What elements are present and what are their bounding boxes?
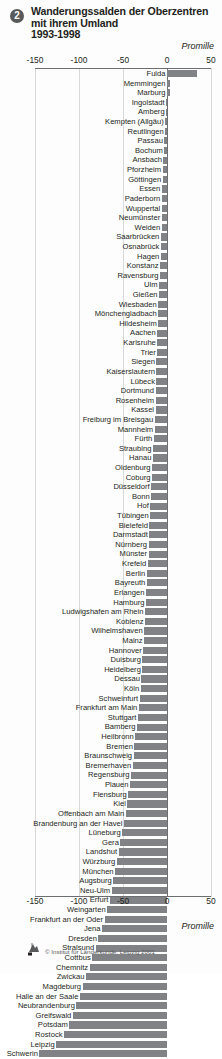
bar-row: Berlin [0,569,222,579]
bar-category-label: Hamburg [113,598,146,607]
bar-category-label: Halle an der Saale [16,992,80,1001]
bar-row: München [0,867,222,877]
bar [140,695,167,702]
bar-row: Hamburg [0,598,222,608]
institute-logo-icon [26,941,42,957]
bar [119,848,167,855]
bar-category-label: Frankfurt am Main [76,703,139,712]
bar [126,810,167,817]
bar-row: Oldenburg [0,463,222,473]
x-axis-tick-label: -100 [71,55,88,65]
bar [86,973,167,980]
bar-category-label: Berlin [126,569,147,578]
bar-category-label: Karlsruhe [123,338,157,347]
bar [120,839,167,846]
bar [165,118,167,125]
bar-category-label: Paderborn [125,194,162,203]
bar [144,637,167,644]
bar-row: Hildesheim [0,319,222,329]
bar [124,820,167,827]
bar-row: Kiel [0,799,222,809]
bar-category-label: Zwickau [57,972,86,981]
bar-row: Koblenz [0,617,222,627]
bar-row: Pforzheim [0,165,222,175]
bar [163,157,167,164]
bar-row: Regensburg [0,770,222,780]
bar-row: Wuppertal [0,204,222,214]
bar-category-label: Stuttgart [108,713,138,722]
bar-category-label: Mannheim [118,425,155,434]
bar-category-label: Fulda [147,69,168,78]
bar [83,983,167,990]
bar [165,128,167,135]
bar-category-label: Münster [120,549,149,558]
bar-row: Passau [0,136,222,146]
bar-category-label: Lüneburg [89,828,123,837]
bar-row: Schwerin [0,1049,222,1059]
bar-row: Hanau [0,453,222,463]
bar-row: Straubing [0,444,222,454]
bar-category-label: Lübeck [130,377,156,386]
bar-category-label: Brandenburg an der Havel [33,819,124,828]
bar-row: Flensburg [0,790,222,800]
bar-row: Fulda [0,69,222,79]
bar-row: Erlangen [0,588,222,598]
bar [166,109,167,116]
bar [141,685,167,692]
bar-category-label: Neubrandenburg [18,1001,77,1010]
bar-row: Nürnberg [0,540,222,550]
bar [157,339,167,346]
bar-category-label: Kiel [113,799,127,808]
bar-row: Landshut [0,847,222,857]
bar-category-label: Heilbronn [101,732,135,741]
bar [92,954,167,961]
bar-row: Ingolstadt [0,98,222,108]
bar-category-label: Ravensburg [118,271,160,280]
bar-category-label: Schweinfurt [99,694,140,703]
bar-category-label: Siegen [131,357,156,366]
bar-category-label: Augsburg [79,876,113,885]
bar-category-label: Ulm [144,280,159,289]
bar-category-label: Krefeld [122,559,148,568]
bar [163,176,167,183]
bar [149,541,167,548]
bar [151,483,167,490]
bar-row: Heidelberg [0,665,222,675]
bar-category-label: Potsdam [38,1020,69,1029]
bar [163,166,167,173]
bar-row: Hagen [0,252,222,262]
bar-row: Fürth [0,434,222,444]
bar [80,993,167,1000]
bar [134,752,167,759]
bar-row: Bremerhaven [0,761,222,771]
bar-row: Wilhelmshaven [0,626,222,636]
bar [146,589,167,596]
bar [69,1021,167,1028]
bar-row: Augsburg [0,876,222,886]
bar-row: Neu-Ulm [0,886,222,896]
bar [56,1041,167,1048]
bar-category-label: Bremerhaven [86,761,133,770]
bar-category-label: Amberg [138,107,166,116]
bar-row: Göttingen [0,175,222,185]
bar-row: Gießen [0,290,222,300]
bar-category-label: Göttingen [128,175,162,184]
bar-category-label: Rostock [35,1030,64,1039]
bar-category-label: Konstanz [127,261,160,270]
bar-category-label: Passau [138,136,165,145]
bar-category-label: Kaiserslautern [106,367,156,376]
bar-category-label: München [82,867,115,876]
bar-row: Hannover [0,646,222,656]
bar-category-label: Regensburg [88,770,131,779]
bar [156,397,167,404]
bar-row: Mönchengladbach [0,309,222,319]
bar-category-label: Neumünster [119,213,162,222]
bar-category-label: Jena [84,924,102,933]
bar [148,560,167,567]
bar-category-label: Schwerin [7,1049,40,1058]
bar-row: Bochum [0,146,222,156]
x-axis-bottom: -150-100-50050 [0,896,222,910]
bar [156,368,167,375]
bar-category-label: Saarbrücken [116,232,161,241]
bar-row: Ravensburg [0,271,222,281]
